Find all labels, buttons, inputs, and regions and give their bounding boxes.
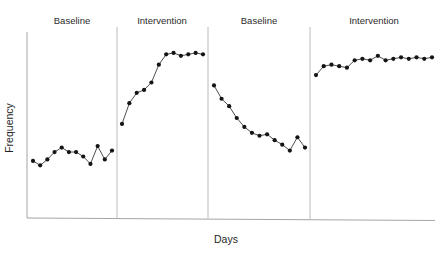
data-point [149,80,153,84]
data-point [314,73,318,77]
data-point [295,135,299,139]
data-point [45,157,49,161]
data-point [96,144,100,148]
data-point [74,150,78,154]
data-point [242,125,246,129]
data-point [171,51,175,55]
data-point [422,57,426,61]
data-point [212,83,216,87]
data-point [414,55,418,59]
data-point [81,154,85,158]
data-point [135,91,139,95]
data-point [391,57,395,61]
data-point [265,132,269,136]
data-point [430,55,434,59]
data-point [250,131,254,135]
data-point [88,162,92,166]
data-point [257,134,261,138]
data-point [60,146,64,150]
chart-background [0,0,447,254]
phase-label-intervention-1: Intervention [137,15,187,26]
data-point [303,146,307,150]
phase-label-intervention-2: Intervention [349,15,399,26]
data-point [157,63,161,67]
phase-label-baseline-1: Baseline [54,15,90,26]
data-point [376,54,380,58]
data-point [322,64,326,68]
data-point [127,101,131,105]
data-point [235,116,239,120]
data-point [103,157,107,161]
data-point [179,54,183,58]
data-point [337,64,341,68]
data-point [368,58,372,62]
data-point [52,150,56,154]
y-axis-title: Frequency [3,102,15,152]
data-point [353,58,357,62]
data-point [329,63,333,67]
data-point [38,163,42,167]
data-point [201,52,205,56]
data-point [31,159,35,163]
data-point [399,55,403,59]
data-point [407,57,411,61]
data-point [227,104,231,108]
data-point [384,58,388,62]
data-point [280,143,284,147]
data-point [142,88,146,92]
data-point [164,52,168,56]
data-point [67,150,71,154]
x-axis-title: Days [214,233,238,245]
data-point [273,138,277,142]
data-point [345,66,349,70]
data-point [219,97,223,101]
phase-label-baseline-2: Baseline [241,15,277,26]
chart-page: Baseline Intervention Baseline Intervent… [0,0,447,254]
data-point [120,122,124,126]
data-point [110,148,114,152]
abab-reversal-line-chart: Baseline Intervention Baseline Intervent… [0,0,447,254]
data-point [360,57,364,61]
data-point [186,52,190,56]
data-point [194,51,198,55]
data-point [288,148,292,152]
